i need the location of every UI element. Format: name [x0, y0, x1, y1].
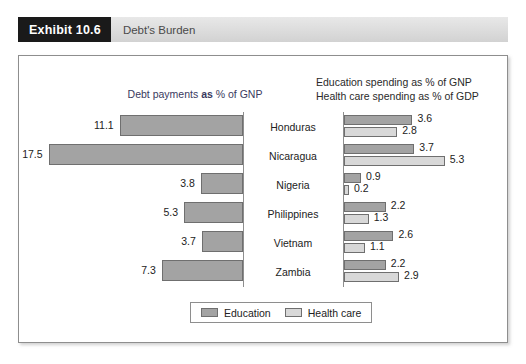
- exhibit-number: Exhibit 10.6: [18, 17, 111, 42]
- debt-panel-cell: 5.3: [18, 199, 243, 228]
- debt-panel-cell: 3.7: [18, 228, 243, 257]
- health-care-value-label: 0.2: [354, 182, 369, 194]
- health-care-swatch-icon: [285, 308, 302, 317]
- education-bar: [344, 260, 386, 270]
- legend-label-health-care: Health care: [308, 307, 362, 319]
- right-heading-line-1: Education spending as % of GNP: [316, 75, 479, 89]
- health-care-value-label: 1.1: [370, 240, 385, 252]
- right-heading-line-2: Health care spending as % of GDP: [316, 89, 479, 103]
- chart-row: 3.8 Nigeria 0.9 0.2: [18, 170, 508, 199]
- spending-panel-cell: 3.7 5.3: [344, 141, 508, 170]
- debt-panel-cell: 3.8: [18, 170, 243, 199]
- chart-legend: Education Health care: [190, 302, 372, 323]
- health-care-bar: [344, 185, 349, 195]
- health-care-bar: [344, 243, 365, 253]
- education-value-label: 3.6: [417, 112, 432, 124]
- spending-panel-cell: 2.2 1.3: [344, 199, 508, 228]
- chart-row: 5.3 Philippines 2.2 1.3: [18, 199, 508, 228]
- left-heading-bold: as: [201, 88, 213, 100]
- debt-bar: [49, 144, 243, 165]
- plot-area: 11.1 Honduras 3.6 2.8 17.5 Nicaragua 3.7…: [18, 112, 508, 287]
- spending-panel-cell: 2.6 1.1: [344, 228, 508, 257]
- debt-panel-cell: 17.5: [18, 141, 243, 170]
- debt-value-label: 7.3: [141, 264, 156, 276]
- health-care-bar: [344, 214, 369, 224]
- exhibit-title: Debt's Burden: [111, 17, 196, 42]
- health-care-bar: [344, 127, 397, 137]
- country-label: Philippines: [243, 199, 343, 228]
- exhibit-header: Exhibit 10.6 Debt's Burden: [18, 17, 508, 42]
- spending-panel-cell: 3.6 2.8: [344, 112, 508, 141]
- education-value-label: 0.9: [366, 170, 381, 182]
- education-bar: [344, 144, 414, 154]
- chart-row: 17.5 Nicaragua 3.7 5.3: [18, 141, 508, 170]
- left-heading-suffix: % of GNP: [213, 88, 263, 100]
- left-heading-prefix: Debt payments: [128, 88, 202, 100]
- debt-value-label: 3.8: [180, 177, 195, 189]
- education-swatch-icon: [201, 308, 218, 317]
- country-label: Nicaragua: [243, 141, 343, 170]
- country-label: Nigeria: [243, 170, 343, 199]
- debt-panel-cell: 7.3: [18, 257, 243, 286]
- health-care-value-label: 2.9: [404, 269, 419, 281]
- education-value-label: 2.2: [391, 199, 406, 211]
- country-label: Honduras: [243, 112, 343, 141]
- country-label: Vietnam: [243, 228, 343, 257]
- chart-row: 3.7 Vietnam 2.6 1.1: [18, 228, 508, 257]
- education-value-label: 2.2: [391, 257, 406, 269]
- education-bar: [344, 231, 393, 241]
- spending-panel-cell: 2.2 2.9: [344, 257, 508, 286]
- chart-row: 7.3 Zambia 2.2 2.9: [18, 257, 508, 286]
- debt-panel-cell: 11.1: [18, 112, 243, 141]
- debt-bar: [162, 260, 243, 281]
- debt-value-label: 5.3: [164, 206, 179, 218]
- debt-value-label: 11.1: [94, 119, 114, 131]
- debt-value-label: 17.5: [22, 148, 42, 160]
- spending-panel-cell: 0.9 0.2: [344, 170, 508, 199]
- right-panel-heading: Education spending as % of GNP Health ca…: [316, 75, 479, 103]
- health-care-value-label: 5.3: [450, 153, 465, 165]
- health-care-bar: [344, 272, 399, 282]
- left-panel-heading: Debt payments as % of GNP: [100, 88, 290, 100]
- legend-item-health-care: Health care: [285, 307, 362, 319]
- country-label: Zambia: [243, 257, 343, 286]
- legend-label-education: Education: [224, 307, 271, 319]
- debt-value-label: 3.7: [181, 235, 196, 247]
- debt-bar: [202, 231, 243, 252]
- education-value-label: 3.7: [419, 141, 434, 153]
- debt-bar: [120, 115, 243, 136]
- legend-item-education: Education: [201, 307, 271, 319]
- debt-bar: [201, 173, 243, 194]
- chart-row: 11.1 Honduras 3.6 2.8: [18, 112, 508, 141]
- health-care-bar: [344, 156, 445, 166]
- health-care-value-label: 1.3: [374, 211, 389, 223]
- debt-bar: [184, 202, 243, 223]
- health-care-value-label: 2.8: [402, 124, 417, 136]
- education-value-label: 2.6: [398, 228, 413, 240]
